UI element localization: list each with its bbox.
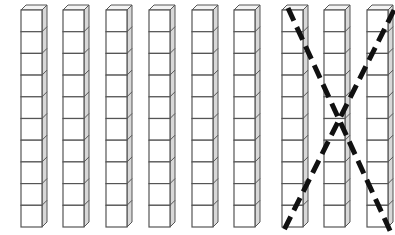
unit-cube [234,184,255,206]
unit-cube [192,53,213,75]
unit-cube [234,97,255,119]
ten-rod [21,5,47,227]
ten-rod [192,5,218,227]
unit-cube [192,140,213,162]
unit-cube [324,10,345,32]
unit-cube [192,205,213,227]
unit-cube [21,119,42,141]
unit-cube [367,119,388,141]
unit-cube [192,184,213,206]
unit-cube [63,184,84,206]
unit-cube [106,53,127,75]
unit-cube [324,53,345,75]
unit-cube [367,10,388,32]
unit-cube [234,140,255,162]
unit-cube [149,140,170,162]
unit-cube [234,119,255,141]
unit-cube [149,119,170,141]
unit-cube [63,75,84,97]
unit-cube [282,162,303,184]
base-ten-diagram: Base-ten rods: 9 tens with 3 crossed out [0,0,395,235]
unit-cube [149,53,170,75]
unit-cube [21,205,42,227]
unit-cube [63,162,84,184]
unit-cube [106,184,127,206]
unit-cube [192,10,213,32]
unit-cube [192,97,213,119]
ten-rod [149,5,175,227]
unit-cube [63,119,84,141]
unit-cube [367,32,388,54]
unit-cube [149,32,170,54]
unit-cube [192,75,213,97]
unit-cube [21,184,42,206]
unit-cube [234,205,255,227]
unit-cube [63,205,84,227]
unit-cube [106,97,127,119]
unit-cube [234,53,255,75]
unit-cube [21,97,42,119]
unit-cube [21,162,42,184]
unit-cube [106,10,127,32]
unit-cube [21,140,42,162]
unit-cube [106,32,127,54]
unit-cube [106,205,127,227]
unit-cube [282,97,303,119]
unit-cube [192,119,213,141]
unit-cube [282,140,303,162]
unit-cube [21,75,42,97]
unit-cube [324,205,345,227]
unit-cube [367,140,388,162]
unit-cube [324,162,345,184]
unit-cube [63,32,84,54]
unit-cube [149,184,170,206]
unit-cube [21,53,42,75]
unit-cube [234,10,255,32]
ten-rod [106,5,132,227]
unit-cube [63,97,84,119]
unit-cube [234,162,255,184]
unit-cube [324,184,345,206]
unit-cube [282,119,303,141]
unit-cube [106,140,127,162]
unit-cube [149,162,170,184]
unit-cube [192,32,213,54]
rods-canvas [0,0,395,235]
unit-cube [192,162,213,184]
unit-cube [282,53,303,75]
unit-cube [149,10,170,32]
unit-cube [106,119,127,141]
unit-cube [63,53,84,75]
unit-cube [63,140,84,162]
unit-cube [367,162,388,184]
unit-cube [367,75,388,97]
unit-cube [106,75,127,97]
unit-cube [234,75,255,97]
unit-cube [106,162,127,184]
unit-cube [324,32,345,54]
unit-cube [149,205,170,227]
ten-rod [234,5,260,227]
unit-cube [63,10,84,32]
unit-cube [149,97,170,119]
unit-cube [21,32,42,54]
unit-cube [21,10,42,32]
ten-rod [63,5,89,227]
unit-cube [234,32,255,54]
unit-cube [367,97,388,119]
unit-cube [149,75,170,97]
unit-cube [282,75,303,97]
